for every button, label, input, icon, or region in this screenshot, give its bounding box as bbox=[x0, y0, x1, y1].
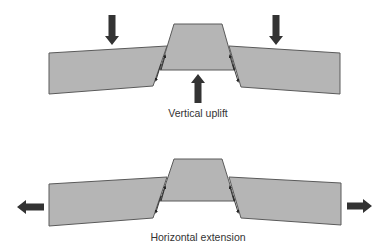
right-fault-block bbox=[229, 46, 340, 94]
down-arrow-right-icon bbox=[269, 15, 283, 45]
right-fault-block bbox=[229, 177, 341, 225]
right-arrow-icon bbox=[347, 199, 372, 213]
left-fault-block bbox=[49, 46, 167, 94]
horizontal-extension-caption: Horizontal extension bbox=[150, 231, 245, 243]
center-horst-block bbox=[160, 159, 235, 201]
left-arrow-icon bbox=[17, 200, 44, 214]
diagram-canvas bbox=[0, 0, 392, 247]
fault-diagram-figure: Vertical uplift Horizontal extension bbox=[0, 0, 392, 247]
vertical-uplift-caption: Vertical uplift bbox=[168, 107, 228, 119]
down-arrow-left-icon bbox=[105, 15, 119, 45]
horizontal-extension-diagram bbox=[17, 159, 372, 226]
vertical-uplift-diagram bbox=[49, 15, 340, 103]
up-arrow-center-icon bbox=[191, 74, 205, 103]
left-fault-block bbox=[49, 177, 167, 226]
center-horst-block bbox=[160, 24, 235, 70]
